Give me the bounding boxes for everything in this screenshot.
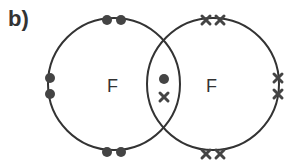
- dot-cross-diagram: [0, 0, 292, 168]
- shared-cross-electron: [160, 93, 168, 101]
- dot-electron: [116, 147, 126, 157]
- right-atom-symbol: F: [206, 76, 217, 97]
- dot-electron: [116, 15, 126, 25]
- right-atom-crosses: [160, 16, 282, 158]
- shared-dot-electron: [159, 74, 169, 84]
- dot-electron: [45, 89, 55, 99]
- dot-electron: [45, 73, 55, 83]
- dot-electron: [102, 15, 112, 25]
- cross-electron: [216, 16, 224, 24]
- left-atom-symbol: F: [107, 76, 118, 97]
- cross-electron: [202, 16, 210, 24]
- dot-electron: [102, 147, 112, 157]
- cross-electron: [216, 150, 224, 158]
- cross-electron: [202, 150, 210, 158]
